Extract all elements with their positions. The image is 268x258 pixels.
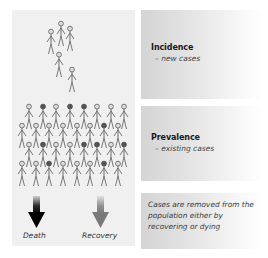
prevalence-subtitle: – existing cases xyxy=(155,144,214,153)
incidence-figures xyxy=(47,21,76,92)
recovery-arrow-icon xyxy=(92,196,109,228)
death-label: Death xyxy=(23,231,46,240)
prevalence-figures xyxy=(18,104,128,186)
removal-panel: Cases are removed from the population ei… xyxy=(141,193,263,249)
prevalence-panel: Prevalence – existing cases xyxy=(141,106,263,181)
removal-text: Cases are removed from the population ei… xyxy=(148,199,262,232)
recovery-label: Recovery xyxy=(82,231,117,240)
death-arrow-icon xyxy=(28,196,45,228)
prevalence-title: Prevalence xyxy=(151,133,200,142)
incidence-title: Incidence xyxy=(151,43,193,52)
incidence-panel: Incidence – new cases xyxy=(141,10,263,99)
incidence-subtitle: – new cases xyxy=(155,54,200,63)
